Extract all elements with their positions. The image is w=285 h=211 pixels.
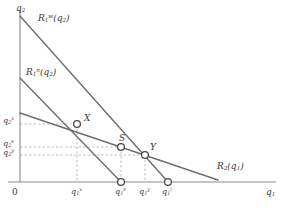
x-tick-q1y: q1y <box>139 188 150 196</box>
marker-point-Y <box>142 152 149 159</box>
point-label-X: X <box>84 114 90 123</box>
x-tick-q1s: q1s <box>115 188 126 196</box>
marker-x-axis-q1i <box>165 179 172 186</box>
point-label-Y: Y <box>150 143 156 152</box>
origin-label: 0 <box>12 188 18 197</box>
y-tick-q2y: q2y <box>3 149 14 157</box>
x-tick-q1x: q1x <box>71 188 82 196</box>
point-label-S: S <box>119 134 125 143</box>
guide-lines <box>20 124 145 182</box>
y-axis-label: q2 <box>16 4 25 13</box>
marker-x-axis-q1s <box>118 179 125 186</box>
reaction-curves <box>20 16 218 182</box>
marker-point-X <box>74 121 81 128</box>
chart-canvas <box>0 0 285 211</box>
x-axis-label: q1 <box>266 188 275 197</box>
marker-point-S <box>118 144 125 151</box>
y-tick-q2x: q2x <box>3 117 14 125</box>
R1-normal-curve-label: R1n(q2) <box>26 68 56 77</box>
R1-war-curve-label: R1w(q2) <box>38 14 69 23</box>
cournot-reaction-function-chart: q2 q1 0 R1w(q2) R1n(q2) R2(q1) X S Y q2x… <box>0 0 285 211</box>
R2-curve-label: R2(q1) <box>217 162 244 171</box>
x-tick-q1i: q1i <box>162 188 172 196</box>
